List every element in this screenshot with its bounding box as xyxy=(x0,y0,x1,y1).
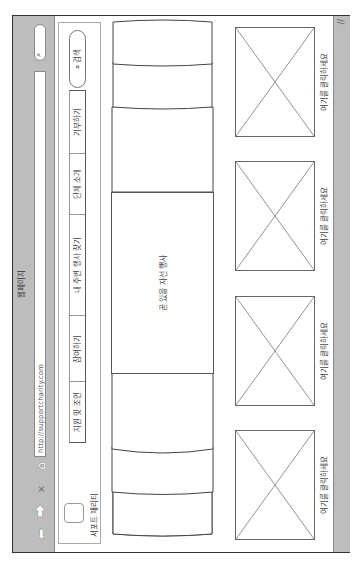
status-bar: // xyxy=(333,16,350,552)
image-placeholder[interactable] xyxy=(235,27,315,137)
close-icon[interactable]: ✕ xyxy=(35,482,48,496)
placeholder-label[interactable]: 여기를 클릭하세요 xyxy=(318,430,329,540)
site-header: 서포트 채리티 지원 및 조언 참여하기 내 주변 행사 찾기 단체 소개 기부… xyxy=(58,22,101,544)
forward-arrow-icon[interactable]: ⮕ xyxy=(35,504,48,518)
image-placeholder-icon xyxy=(236,28,314,136)
logo-text[interactable]: 서포트 채리티 xyxy=(88,493,99,537)
browser-search-field[interactable]: ⌕ xyxy=(34,24,46,61)
main-nav: 지원 및 조언 참여하기 내 주변 행사 찾기 단체 소개 기부하기 xyxy=(69,90,86,443)
tab-donate[interactable]: 기부하기 xyxy=(70,91,85,153)
image-placeholder-icon xyxy=(236,297,314,405)
search-button-label: 검색 xyxy=(73,49,82,63)
address-toolbar: ⬅ ⮕ ✕ ⌂ http://supportcharity.com ⌕ xyxy=(29,16,55,552)
search-icon: ⌕ xyxy=(34,53,44,57)
tab-find-events[interactable]: 내 주변 행사 찾기 xyxy=(70,214,85,315)
featured-event-slide[interactable]: 곧 있을 자선 행사 xyxy=(111,192,214,374)
event-carousel[interactable]: 곧 있을 자선 행사 xyxy=(111,14,215,552)
tab-about[interactable]: 단체 소개 xyxy=(70,153,85,214)
tab-support-advice[interactable]: 지원 및 조언 xyxy=(70,381,85,442)
search-icon: ⌕ xyxy=(73,65,82,69)
logo-icon[interactable] xyxy=(64,503,84,523)
window-title: 웹페이지 xyxy=(15,16,26,552)
url-field[interactable]: http://supportcharity.com xyxy=(34,71,46,457)
featured-event-label: 곧 있을 자선 행사 xyxy=(157,255,168,312)
home-icon[interactable]: ⌂ xyxy=(35,459,48,473)
image-placeholder-icon xyxy=(236,162,314,270)
resize-grip-icon[interactable]: // xyxy=(337,19,346,24)
image-placeholder[interactable] xyxy=(235,296,315,406)
placeholder-label[interactable]: 여기를 클릭하세요 xyxy=(318,161,329,271)
title-bar: 웹페이지 xyxy=(13,16,29,552)
tab-get-involved[interactable]: 참여하기 xyxy=(70,315,85,381)
back-arrow-icon[interactable]: ⬅ xyxy=(35,527,48,541)
search-button[interactable]: ⌕ 검색 xyxy=(69,30,86,88)
image-placeholder[interactable] xyxy=(235,161,315,271)
image-placeholder-icon xyxy=(236,431,314,539)
image-placeholder[interactable] xyxy=(235,430,315,540)
placeholder-label[interactable]: 여기를 클릭하세요 xyxy=(318,27,329,137)
browser-window: 웹페이지 ⬅ ⮕ ✕ ⌂ http://supportcharity.com ⌕… xyxy=(12,15,350,553)
browser-window-rotated: 웹페이지 ⬅ ⮕ ✕ ⌂ http://supportcharity.com ⌕… xyxy=(12,15,350,553)
placeholder-label[interactable]: 여기를 클릭하세요 xyxy=(318,296,329,406)
